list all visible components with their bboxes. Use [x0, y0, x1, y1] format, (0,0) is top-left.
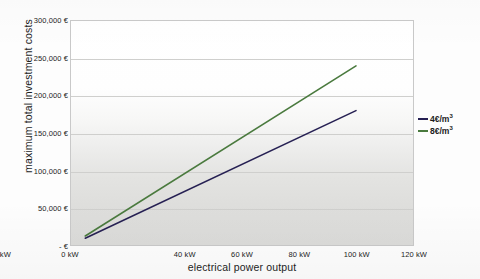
y-tick-label: 50,000 € — [2, 204, 68, 213]
x-tick-label: 20 kW — [0, 250, 11, 259]
x-tick-label: 60 kW — [231, 250, 253, 259]
chart-legend: 4€/m3 8€/m3 — [418, 114, 453, 136]
y-tick-label: 300,000 € — [2, 16, 68, 25]
y-tick-label: - € — [2, 242, 68, 251]
series-line-4eur — [85, 111, 356, 239]
legend-item-4eur: 4€/m3 — [418, 114, 453, 124]
y-axis-title: maximum total investment costs — [22, 0, 34, 196]
y-tick-label: 100,000 € — [2, 166, 68, 175]
x-tick-label: 80 kW — [288, 250, 310, 259]
legend-label-8eur: 8€/m3 — [430, 126, 453, 136]
legend-item-8eur: 8€/m3 — [418, 126, 453, 136]
y-tick-label: 200,000 € — [2, 91, 68, 100]
legend-color-swatch-8eur — [418, 130, 428, 132]
y-tick-label: 150,000 € — [2, 129, 68, 138]
x-tick-label: 100 kW — [344, 250, 370, 259]
legend-label-4eur: 4€/m3 — [430, 114, 453, 124]
plot-area — [70, 20, 414, 246]
x-tick-label: 40 kW — [174, 250, 196, 259]
series-line-8eur — [85, 66, 356, 236]
x-tick-label: 0 kW — [61, 250, 78, 259]
y-axis-tick-labels: 300,000 € 250,000 € 200,000 € 150,000 € … — [0, 0, 68, 279]
chart-screenshot: 300,000 € 250,000 € 200,000 € 150,000 € … — [0, 0, 480, 279]
series-lines — [71, 21, 413, 245]
x-axis-title: electrical power output — [70, 261, 414, 273]
x-tick-label: 120 kW — [401, 250, 427, 259]
legend-color-swatch-4eur — [418, 118, 428, 120]
y-tick-label: 250,000 € — [2, 53, 68, 62]
